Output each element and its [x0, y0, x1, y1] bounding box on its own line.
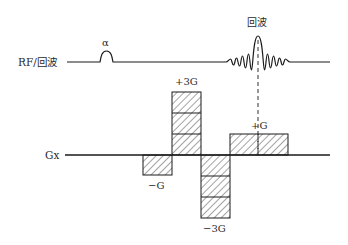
alpha-pulse-label: α [102, 37, 109, 48]
gradient-pos-3g-label: +3G [175, 76, 198, 87]
gradient-neg-3g-label: −3G [203, 223, 226, 234]
pulse-sequence-diagram: RF/回波 α 回波 Gx −G +3G −3G +G [0, 0, 348, 245]
gradient-pos-g-label: +G [251, 120, 267, 131]
gradient-neg-g-label: −G [148, 180, 164, 191]
gradient-neg-3g-lobe [201, 155, 230, 218]
alpha-pulse-shape [67, 51, 207, 62]
gradient-neg-g-lobe [143, 155, 172, 175]
gradient-pos-3g-lobe [172, 92, 201, 155]
echo-signal-shape [207, 36, 330, 70]
rf-echo-row-label: RF/回波 [18, 56, 58, 68]
echo-label: 回波 [247, 16, 267, 28]
gradient-pos-g-lobe [230, 134, 288, 155]
gx-row-label: Gx [45, 149, 59, 161]
